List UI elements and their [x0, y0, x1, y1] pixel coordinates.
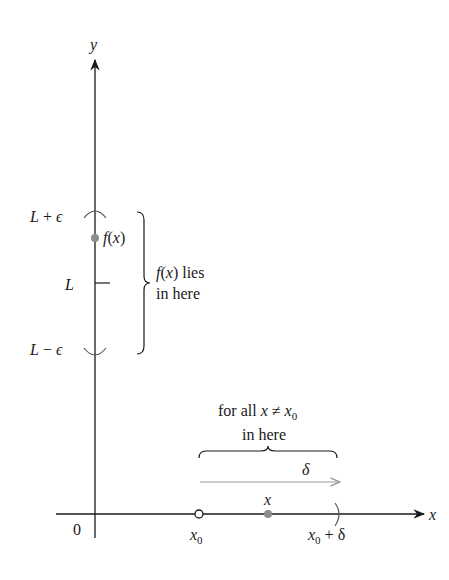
x-axis-label: x — [428, 506, 436, 523]
y-range-brace — [137, 212, 150, 354]
upper-bound-label: L + ϵ — [29, 208, 63, 225]
fx-point-label: f(x) — [103, 229, 125, 247]
x0-label: x0 — [189, 526, 203, 546]
delta-label: δ — [302, 461, 310, 478]
x-brace-text-line2: in here — [242, 426, 286, 443]
y-brace-text-line1: f(x) lies — [156, 264, 204, 282]
fx-point — [91, 234, 99, 242]
x0-plus-delta-label: x0 + δ — [307, 526, 345, 546]
center-L-label: L — [64, 276, 74, 293]
x0-open-point — [195, 510, 203, 518]
y-axis-label: y — [88, 36, 98, 54]
x-range-brace — [199, 446, 337, 458]
x-brace-text-line1: for all x ≠ x0 — [218, 402, 298, 422]
y-brace-text-line2: in here — [156, 285, 200, 302]
x-point — [264, 510, 272, 518]
x-point-label: x — [263, 491, 271, 508]
lower-bound-label: L − ϵ — [29, 341, 63, 358]
epsilon-delta-diagram: y x 0 L + ϵ L L − ϵ f(x) f(x) lies in he… — [0, 0, 449, 580]
origin-label: 0 — [73, 521, 81, 538]
